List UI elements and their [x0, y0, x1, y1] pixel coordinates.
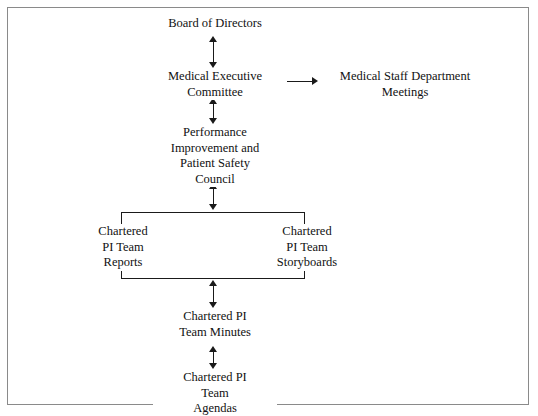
node-board-of-directors: Board of Directors — [133, 16, 297, 32]
node-chartered-pi-team-minutes: Chartered PI Team Minutes — [153, 309, 277, 340]
arrowhead-agendas-down — [209, 363, 217, 369]
arrowhead-minutes-bottom-up — [209, 346, 217, 352]
arrowhead-council-down — [209, 118, 217, 124]
node-chartered-pi-team-storyboards: Chartered PI Team Storyboards — [260, 224, 354, 271]
arrowhead-board-up — [209, 36, 217, 42]
diagram-frame: Board of Directors Medical Executive Com… — [7, 7, 529, 405]
node-medical-executive-committee: Medical Executive Committee — [143, 69, 287, 100]
arrowhead-minutes-down — [209, 302, 217, 308]
arrowhead-teams-down — [209, 204, 217, 210]
arrowhead-mec-down — [209, 62, 217, 68]
arrowhead-teams-bottom-up — [209, 280, 217, 286]
node-performance-improvement-patient-safety-council: Performance Improvement and Patient Safe… — [153, 125, 277, 187]
arrowhead-medstaff-right — [312, 77, 318, 85]
node-chartered-pi-team-agendas: Chartered PI Team Agendas — [153, 370, 277, 416]
node-medical-staff-department-meetings: Medical Staff Department Meetings — [323, 69, 487, 100]
node-chartered-pi-team-reports: Chartered PI Team Reports — [81, 224, 165, 271]
connector-council-teams — [213, 186, 214, 206]
